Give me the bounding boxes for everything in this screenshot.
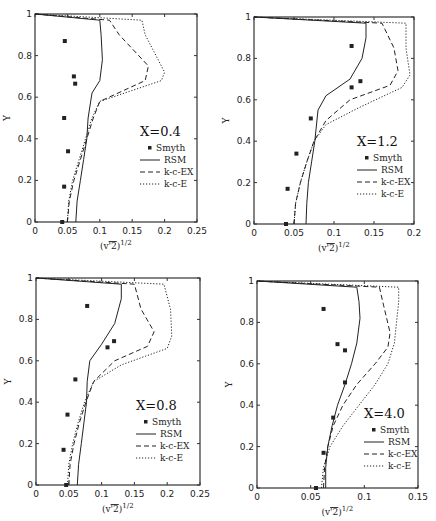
x-tick-label: 0.15 [122, 226, 142, 236]
series-line-k-c-e [35, 14, 165, 222]
y-tick-label: 1 [248, 276, 254, 286]
smyth-data-point [309, 116, 313, 120]
smyth-data-point [73, 377, 77, 381]
smyth-data-point [350, 44, 354, 48]
smyth-data-point [65, 413, 69, 417]
legend-label: k-c-E [164, 179, 187, 189]
y-tick-label: 1 [245, 12, 251, 22]
y-tick-label: 0.4 [18, 134, 33, 144]
legend-marker-icon [144, 420, 148, 424]
x-tick-label: 0.1 [94, 489, 108, 499]
legend-label: RSM [160, 429, 182, 439]
legend-label: k-c-EX [164, 167, 194, 177]
smyth-data-point [63, 39, 67, 43]
smyth-data-point [358, 79, 362, 83]
legend-label: k-c-EX [381, 177, 411, 187]
figure-canvas: 00.050.10.150.20.2500.20.40.60.81Y(v'2)1… [0, 0, 436, 521]
panel-title: X=0.4 [140, 124, 181, 139]
x-tick-label: 0.05 [301, 492, 321, 502]
y-tick-label: 0.8 [19, 314, 34, 324]
smyth-data-point [322, 451, 326, 455]
x-tick-label: 0.15 [364, 228, 384, 238]
chart-panel-X-4-0: 00.050.10.1500.20.40.60.81Y(v'2)1/2X=4.0… [224, 276, 428, 517]
series-line-rsm [36, 278, 121, 485]
legend-label: k-c-E [388, 461, 411, 471]
smyth-data-point [85, 304, 89, 308]
x-axis-label: (v'2)1/2 [100, 239, 132, 251]
x-tick-label: 0.05 [284, 228, 304, 238]
x-tick-label: 0.1 [357, 492, 371, 502]
y-tick-label: 0 [27, 480, 33, 490]
legend-label: RSM [388, 437, 410, 447]
y-tick-label: 1 [27, 273, 33, 283]
y-axis-label: Y [3, 377, 13, 385]
legend-label: k-c-EX [160, 441, 190, 451]
series-line-k-c-ex [257, 281, 390, 488]
y-tick-label: 0 [248, 483, 254, 493]
plot-frame [35, 14, 197, 222]
y-tick-label: 0.6 [18, 92, 33, 102]
x-axis-label: (v'2)1/2 [318, 241, 350, 253]
smyth-data-point [66, 149, 70, 153]
y-tick-label: 0.6 [19, 356, 34, 366]
legend-label: RSM [381, 165, 403, 175]
legend-marker-icon [148, 146, 152, 150]
legend-label: k-c-E [381, 189, 404, 199]
legend-label: Smyth [152, 417, 181, 427]
y-tick-label: 0.6 [237, 95, 252, 105]
series-line-rsm [254, 17, 366, 224]
y-tick-label: 1 [26, 9, 32, 19]
smyth-data-point [343, 348, 347, 352]
y-tick-label: 0.2 [18, 175, 32, 185]
panel-title: X=4.0 [364, 406, 405, 421]
x-tick-label: 0.15 [408, 492, 428, 502]
legend-label: k-c-EX [388, 449, 418, 459]
x-tick-label: 0 [33, 489, 39, 499]
y-tick-label: 0.6 [240, 359, 255, 369]
series-line-k-c-ex [35, 14, 148, 222]
smyth-data-point [73, 82, 77, 86]
x-tick-label: 0.2 [407, 228, 421, 238]
x-tick-label: 0 [32, 226, 38, 236]
smyth-data-point [62, 448, 66, 452]
x-tick-label: 0 [254, 492, 260, 502]
y-tick-label: 0 [26, 217, 32, 227]
smyth-data-point [314, 486, 318, 490]
y-axis-label: Y [2, 114, 12, 122]
y-tick-label: 0.4 [240, 400, 255, 410]
y-tick-label: 0.4 [237, 136, 252, 146]
y-tick-label: 0.8 [237, 53, 252, 63]
series-line-rsm [257, 281, 360, 488]
legend-label: Smyth [380, 425, 409, 435]
legend-label: Smyth [156, 143, 185, 153]
smyth-data-point [322, 307, 326, 311]
smyth-data-point [72, 74, 76, 78]
y-tick-label: 0.4 [19, 397, 34, 407]
smyth-data-point [62, 116, 66, 120]
series-line-k-c-e [257, 281, 399, 488]
y-tick-label: 0.2 [240, 442, 254, 452]
x-tick-label: 0.25 [190, 489, 210, 499]
x-tick-label: 0.1 [93, 226, 107, 236]
smyth-data-point [106, 345, 110, 349]
y-axis-label: Y [224, 380, 234, 388]
x-tick-label: 0.1 [327, 228, 341, 238]
legend-label: Smyth [373, 153, 402, 163]
y-tick-label: 0.2 [237, 178, 251, 188]
x-tick-label: 0.2 [160, 489, 174, 499]
smyth-data-point [284, 222, 288, 226]
chart-panel-X-0-8: 00.050.10.150.20.2500.20.40.60.81Y(v'2)1… [3, 273, 210, 514]
y-tick-label: 0 [245, 219, 251, 229]
smyth-data-point [350, 85, 354, 89]
smyth-data-point [336, 342, 340, 346]
x-axis-label: (v'2)1/2 [322, 505, 354, 517]
x-tick-label: 0.05 [59, 489, 79, 499]
smyth-data-point [62, 185, 66, 189]
series-line-k-c-ex [36, 278, 154, 485]
y-tick-label: 0.2 [19, 439, 33, 449]
legend-marker-icon [372, 428, 376, 432]
y-axis-label: Y [221, 116, 231, 124]
x-tick-label: 0 [251, 228, 257, 238]
series-line-rsm [35, 14, 102, 222]
smyth-data-point [294, 152, 298, 156]
